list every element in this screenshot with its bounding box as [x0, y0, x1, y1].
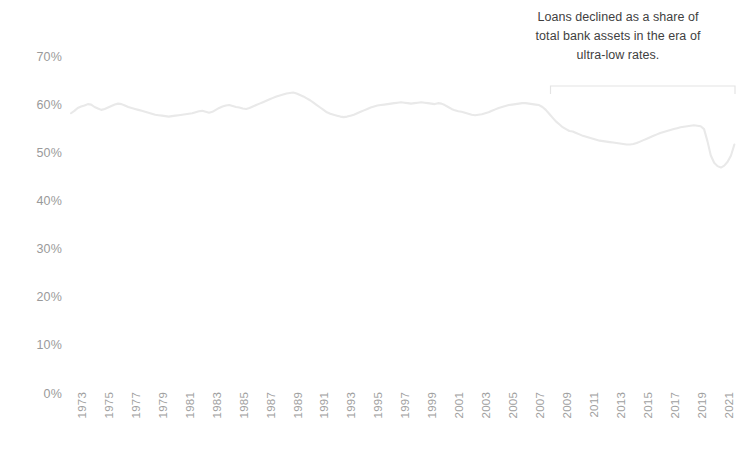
x-axis-tick-label: 2015 — [642, 392, 654, 418]
x-axis-tick-label: 2003 — [480, 392, 492, 418]
x-axis-labels: 1973197519771979198119831985198719891991… — [0, 0, 744, 467]
x-axis-tick-label: 1993 — [345, 392, 357, 418]
x-axis-tick-label: 1977 — [130, 392, 142, 418]
x-axis-tick-label: 2005 — [507, 392, 519, 418]
x-axis-tick-label: 2001 — [453, 392, 465, 418]
x-axis-tick-label: 1997 — [399, 392, 411, 418]
x-axis-tick-label: 1979 — [157, 392, 169, 418]
x-axis-tick-label: 1981 — [184, 392, 196, 418]
x-axis-tick-label: 1973 — [76, 392, 88, 418]
x-axis-tick-label: 2011 — [588, 392, 600, 418]
x-axis-tick-label: 2021 — [723, 392, 735, 418]
x-axis-tick-label: 2019 — [696, 392, 708, 418]
x-axis-tick-label: 1985 — [238, 392, 250, 418]
x-axis-tick-label: 1989 — [292, 392, 304, 418]
chart-container: Loans declined as a share of total bank … — [0, 0, 744, 467]
x-axis-tick-label: 1983 — [211, 392, 223, 418]
x-axis-tick-label: 2007 — [534, 392, 546, 418]
x-axis-tick-label: 2009 — [561, 392, 573, 418]
x-axis-tick-label: 1999 — [426, 392, 438, 418]
x-axis-tick-label: 2013 — [615, 392, 627, 418]
x-axis-tick-label: 2017 — [669, 392, 681, 418]
x-axis-tick-label: 1987 — [265, 392, 277, 418]
x-axis-tick-label: 1995 — [372, 392, 384, 418]
x-axis-tick-label: 1991 — [318, 392, 330, 418]
x-axis-tick-label: 1975 — [103, 392, 115, 418]
